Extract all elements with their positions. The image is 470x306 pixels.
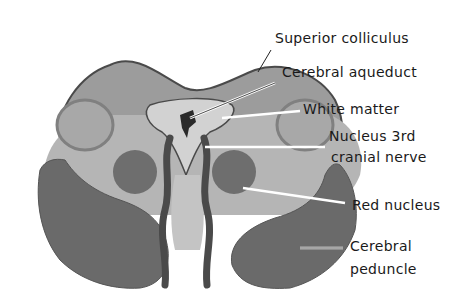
midbrain-diagram: Superior colliculus Cerebral aqueduct Wh…	[0, 0, 470, 306]
label-nucleus-3rd-line2: cranial nerve	[331, 149, 427, 165]
left-red-nucleus	[113, 150, 157, 194]
label-red-nucleus: Red nucleus	[352, 197, 440, 213]
label-white-matter: White matter	[303, 101, 399, 117]
right-oculomotor-nerve	[204, 138, 210, 285]
label-nucleus-3rd-line1: Nucleus 3rd	[329, 128, 416, 144]
label-cerebral-peduncle-line1: Cerebral	[350, 238, 412, 254]
left-colliculus	[57, 100, 113, 150]
right-red-nucleus	[212, 150, 256, 194]
label-superior-colliculus: Superior colliculus	[275, 30, 409, 46]
interpeduncular-region	[171, 175, 204, 250]
label-cerebral-aqueduct: Cerebral aqueduct	[282, 64, 417, 80]
label-cerebral-peduncle-line2: peduncle	[350, 261, 417, 277]
